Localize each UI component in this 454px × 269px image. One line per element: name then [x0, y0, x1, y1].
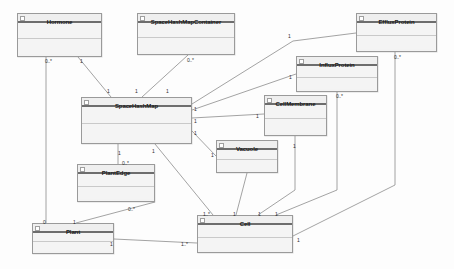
class-header-spacehashmap: SpaceHashMap — [82, 98, 191, 107]
class-header-spacehashmapcontainer: SpaceHashMapContainer — [138, 14, 234, 23]
class-icon — [267, 98, 272, 103]
class-header-cell: Cell — [198, 216, 292, 225]
multiplicity-label: 1 — [73, 219, 76, 225]
class-name-hormone: Hormone — [47, 19, 73, 25]
multiplicity-label: 1 — [152, 148, 155, 154]
operations-compartment-plant — [33, 242, 113, 251]
attributes-compartment-spacehashmapcontainer — [138, 23, 234, 38]
class-body-cell — [198, 225, 292, 250]
multiplicity-label: 1 — [110, 241, 113, 247]
multiplicity-label: 1 — [194, 118, 197, 124]
class-box-spacehashmap[interactable]: SpaceHashMap — [81, 97, 192, 144]
multiplicity-label: 1 — [297, 237, 300, 243]
attributes-compartment-spacehashmap — [82, 107, 191, 124]
multiplicity-label: 0..* — [394, 54, 401, 60]
association-shmc-shm[interactable] — [142, 55, 188, 97]
multiplicity-label: 1 — [293, 143, 296, 149]
multiplicity-label: 0..* — [128, 206, 135, 212]
class-body-effluxprotein — [357, 23, 436, 49]
class-box-plantedge[interactable]: PlantEdge — [77, 164, 155, 202]
class-box-plant[interactable]: Plant — [32, 223, 114, 254]
multiplicity-label: 0..* — [336, 93, 343, 99]
class-header-cellmembrane: CellMembrane — [265, 96, 326, 105]
operations-compartment-effluxprotein — [357, 36, 436, 49]
class-name-plantedge: PlantEdge — [102, 170, 130, 176]
class-body-hormone — [18, 23, 101, 54]
class-body-influxprotein — [297, 66, 377, 89]
class-box-vacuole[interactable]: Vacuole — [216, 140, 278, 173]
class-name-influxprotein: InfluxProtein — [319, 62, 354, 68]
class-icon — [359, 16, 364, 21]
class-icon — [20, 16, 25, 21]
class-box-effluxprotein[interactable]: EffluxProtein — [356, 13, 437, 52]
attributes-compartment-hormone — [18, 23, 101, 39]
multiplicity-label: 1..* — [181, 241, 188, 247]
multiplicity-label: 1 — [258, 211, 261, 217]
class-body-spacehashmap — [82, 107, 191, 141]
multiplicity-label: 1 — [166, 88, 169, 94]
association-vacuole-cell[interactable] — [236, 173, 247, 215]
multiplicity-label: 1 — [194, 130, 197, 136]
class-box-cell[interactable]: Cell — [197, 215, 293, 253]
multiplicity-label: 0..* — [45, 58, 52, 64]
multiplicity-label: 1 — [233, 211, 236, 217]
class-body-spacehashmapcontainer — [138, 23, 234, 52]
multiplicity-label: 1 — [289, 74, 292, 80]
multiplicity-label: 0..* — [122, 160, 129, 166]
class-box-spacehashmapcontainer[interactable]: SpaceHashMapContainer — [137, 13, 235, 55]
multiplicity-label: 1..* — [203, 211, 210, 217]
class-icon — [84, 100, 89, 105]
operations-compartment-cell — [198, 238, 292, 251]
class-header-plant: Plant — [33, 224, 113, 233]
class-name-vacuole: Vacuole — [236, 146, 258, 152]
class-name-spacehashmap: SpaceHashMap — [115, 103, 158, 109]
class-name-plant: Plant — [66, 229, 80, 235]
multiplicity-label: 1 — [211, 152, 214, 158]
multiplicity-label: 1 — [275, 211, 278, 217]
operations-compartment-spacehashmapcontainer — [138, 38, 234, 53]
multiplicity-label: 0..* — [187, 57, 194, 63]
class-name-cellmembrane: CellMembrane — [276, 101, 316, 107]
class-body-plantedge — [78, 174, 154, 199]
class-name-cell: Cell — [240, 221, 251, 227]
multiplicity-label: 1 — [80, 58, 83, 64]
multiplicity-label: 1 — [118, 150, 121, 156]
class-body-vacuole — [217, 150, 277, 170]
attributes-compartment-cellmembrane — [265, 105, 326, 119]
operations-compartment-cellmembrane — [265, 119, 326, 133]
class-box-cellmembrane[interactable]: CellMembrane — [264, 95, 327, 136]
class-icon — [219, 143, 224, 148]
class-icon — [299, 59, 304, 64]
association-shm-cellmembrane[interactable] — [192, 114, 264, 118]
association-plantedge-plant[interactable] — [76, 202, 155, 223]
operations-compartment-vacuole — [217, 160, 277, 170]
uml-class-diagram: HormoneSpaceHashMapContainerEffluxProtei… — [0, 0, 454, 269]
multiplicity-label: 0 — [43, 219, 46, 225]
class-icon — [35, 226, 40, 231]
class-name-effluxprotein: EffluxProtein — [378, 19, 414, 25]
class-name-spacehashmapcontainer: SpaceHashMapContainer — [151, 19, 221, 25]
class-header-plantedge: PlantEdge — [78, 165, 154, 174]
operations-compartment-spacehashmap — [82, 124, 191, 141]
multiplicity-label: 1 — [194, 106, 197, 112]
class-header-vacuole: Vacuole — [217, 141, 277, 150]
class-body-cellmembrane — [265, 105, 326, 133]
operations-compartment-hormone — [18, 39, 101, 55]
class-icon — [140, 16, 145, 21]
multiplicity-label: 1 — [256, 113, 259, 119]
class-header-effluxprotein: EffluxProtein — [357, 14, 436, 23]
class-box-hormone[interactable]: Hormone — [17, 13, 102, 57]
multiplicity-label: 1 — [107, 88, 110, 94]
operations-compartment-influxprotein — [297, 78, 377, 90]
class-icon — [200, 218, 205, 223]
class-header-influxprotein: InfluxProtein — [297, 57, 377, 66]
class-icon — [80, 167, 85, 172]
operations-compartment-plantedge — [78, 187, 154, 200]
multiplicity-label: 1 — [288, 33, 291, 39]
class-box-influxprotein[interactable]: InfluxProtein — [296, 56, 378, 92]
class-header-hormone: Hormone — [18, 14, 101, 23]
association-shm-cell[interactable] — [155, 144, 213, 215]
multiplicity-label: 1 — [135, 88, 138, 94]
class-body-plant — [33, 233, 113, 251]
